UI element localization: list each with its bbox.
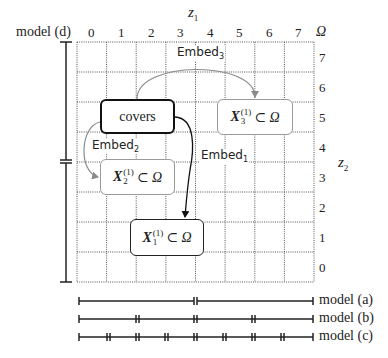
x-tick: 6 — [266, 26, 273, 39]
covers-node-label: covers — [119, 109, 156, 125]
y-tick: 4 — [319, 141, 326, 154]
x-tick: 2 — [148, 26, 155, 39]
x1-node: X (1)1 ⊂ Ω — [130, 219, 204, 256]
x-tick: 5 — [236, 26, 243, 39]
embed2-label: Embed2 — [91, 139, 140, 154]
x-axis-title-sub: 1 — [194, 13, 199, 23]
y-tick: 6 — [319, 81, 326, 94]
model-c-bar — [79, 333, 313, 341]
y-axis-title: z2 — [338, 155, 348, 173]
x3-sub: 3 — [241, 117, 252, 126]
embed2-label-sub: 2 — [134, 145, 139, 154]
embed3-label: Embed3 — [176, 46, 225, 61]
y-tick: 1 — [319, 231, 326, 244]
y-tick: 5 — [319, 111, 326, 124]
x1-rest: ⊂ Ω — [166, 229, 191, 246]
x2-symbol: X — [113, 169, 122, 185]
x3-supsub: (1)3 — [241, 108, 252, 126]
diagram-canvas: z1 z2 model (d) Ω 0 1 2 3 4 5 6 7 7 6 5 … — [0, 0, 388, 358]
x-tick: 0 — [88, 26, 95, 39]
embed1-label-text: Embed — [201, 148, 243, 162]
x-axis-title: z1 — [188, 5, 198, 23]
x-tick: 7 — [295, 26, 302, 39]
y-tick: 7 — [319, 51, 326, 64]
x1-symbol: X — [142, 230, 151, 246]
x1-supsub: (1)1 — [153, 229, 164, 247]
model-d-bar — [60, 42, 72, 282]
embed3-label-text: Embed — [177, 45, 219, 59]
embed2-label-text: Embed — [92, 138, 134, 152]
x2-sub: 2 — [123, 177, 134, 186]
x-tick: 3 — [177, 26, 184, 39]
x2-supsub: (1)2 — [123, 168, 134, 186]
x-tick: 1 — [118, 26, 125, 39]
covers-node: covers — [100, 99, 175, 134]
x2-rest: ⊂ Ω — [137, 169, 162, 186]
x3-node: X (1)3 ⊂ Ω — [217, 99, 293, 135]
y-tick: 3 — [319, 171, 326, 184]
model-b-bar — [79, 315, 313, 323]
embed1-label: Embed1 — [200, 149, 249, 164]
x2-node: X (1)2 ⊂ Ω — [100, 159, 175, 195]
model-d-label: model (d) — [16, 25, 71, 39]
embed1-label-sub: 1 — [243, 155, 248, 164]
y-tick: 0 — [319, 261, 326, 274]
x3-symbol: X — [230, 109, 239, 125]
embed3-label-sub: 3 — [219, 52, 224, 61]
model-a-label: model (a) — [319, 293, 373, 307]
model-a-bar — [79, 297, 313, 305]
model-b-label: model (b) — [319, 311, 374, 325]
y-axis-title-sub: 2 — [344, 163, 349, 173]
x1-sub: 1 — [153, 238, 164, 247]
model-c-label: model (c) — [319, 329, 373, 343]
y-tick: 2 — [319, 201, 326, 214]
omega-corner-label: Ω — [316, 25, 326, 39]
x3-rest: ⊂ Ω — [254, 109, 279, 126]
x-tick: 4 — [207, 26, 214, 39]
